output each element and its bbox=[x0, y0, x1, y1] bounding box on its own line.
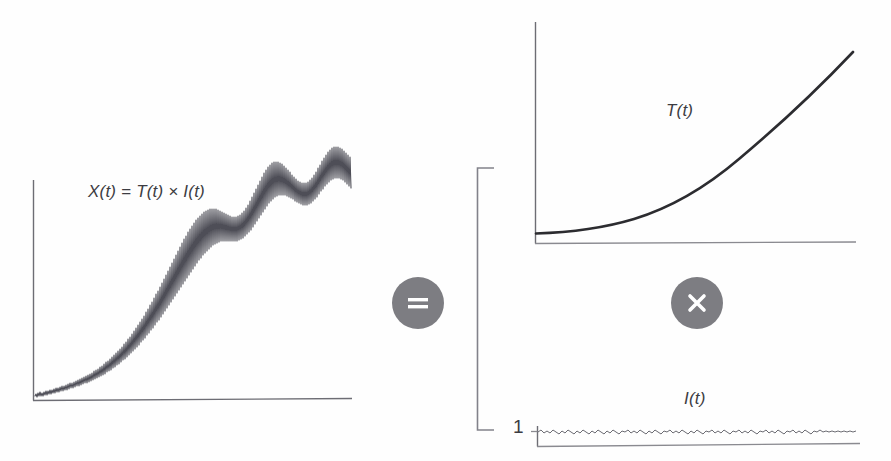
observed-series-svg bbox=[0, 0, 400, 461]
figure-canvas: X(t) = T(t) × I(t) T(t) bbox=[0, 0, 891, 461]
equation-label: X(t) = T(t) × I(t) bbox=[88, 182, 205, 202]
trend-label: T(t) bbox=[666, 101, 693, 121]
chart-trend-component bbox=[500, 0, 891, 270]
observed-x-axis bbox=[33, 399, 352, 401]
irregular-x-axis bbox=[537, 444, 860, 447]
chart-observed-series bbox=[0, 0, 400, 461]
trend-x-axis bbox=[535, 242, 856, 244]
trend-component-trace bbox=[536, 52, 853, 234]
times-icon bbox=[682, 288, 712, 318]
equals-icon bbox=[403, 288, 433, 318]
baseline-tick-label: 1 bbox=[513, 416, 524, 438]
irregular-component-trace bbox=[538, 430, 856, 434]
equals-operator-badge bbox=[392, 277, 444, 329]
irregular-label: I(t) bbox=[684, 389, 706, 409]
times-operator-badge bbox=[671, 277, 723, 329]
trend-component-svg bbox=[500, 0, 891, 270]
